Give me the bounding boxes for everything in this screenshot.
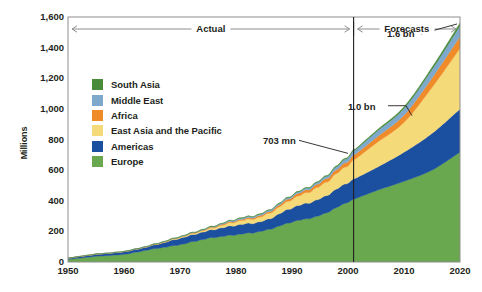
- legend-item: South Asia: [92, 77, 272, 92]
- legend-swatch-icon: [92, 156, 103, 167]
- legend-swatch-icon: [92, 110, 103, 121]
- x-tick-label: 1960: [101, 266, 147, 276]
- y-axis-tick-labels: 02004006008001,0001,2001,4001,600: [22, 0, 64, 292]
- x-axis-tick-labels: 19501960197019801990200020102020: [0, 266, 482, 282]
- y-tick-label: 800: [24, 135, 64, 145]
- y-tick-label: 600: [24, 165, 64, 175]
- y-tick-label: 1,600: [24, 12, 64, 22]
- legend-item-label: Africa: [111, 110, 138, 121]
- x-tick-label: 2010: [381, 266, 427, 276]
- x-tick-label: 1980: [213, 266, 259, 276]
- legend-item: East Asia and the Pacific: [92, 123, 272, 138]
- legend-item: Europe: [92, 154, 272, 169]
- legend-item-label: South Asia: [111, 79, 160, 90]
- y-tick-label: 400: [24, 196, 64, 206]
- legend-item-label: Europe: [111, 156, 143, 167]
- x-tick-label: 1990: [269, 266, 315, 276]
- x-tick-label: 2000: [325, 266, 371, 276]
- span-label-actual: Actual: [191, 24, 230, 34]
- legend-item: Middle East: [92, 92, 272, 107]
- y-tick-label: 1,200: [24, 73, 64, 83]
- legend-swatch-icon: [92, 125, 103, 136]
- chart-legend: South AsiaMiddle EastAfricaEast Asia and…: [92, 77, 272, 169]
- y-tick-label: 200: [24, 226, 64, 236]
- y-tick-label: 1,000: [24, 104, 64, 114]
- callout-1-6-bn: 1.6 bn: [387, 29, 414, 39]
- x-tick-label: 1950: [45, 266, 91, 276]
- x-tick-label: 1970: [157, 266, 203, 276]
- x-tick-label: 2020: [437, 266, 482, 276]
- legend-item-label: Middle East: [111, 95, 163, 106]
- legend-item-label: Americas: [111, 141, 153, 152]
- y-tick-label: 1,400: [24, 43, 64, 53]
- legend-item: Americas: [92, 139, 272, 154]
- legend-swatch-icon: [92, 141, 103, 152]
- legend-swatch-icon: [92, 79, 103, 90]
- callout-1-0-bn: 1.0 bn: [348, 102, 375, 112]
- callout-703-mn: 703 mn: [263, 136, 296, 146]
- legend-item: Africa: [92, 108, 272, 123]
- stacked-area-chart: Millions 02004006008001,0001,2001,4001,6…: [0, 0, 482, 292]
- legend-item-label: East Asia and the Pacific: [111, 125, 222, 136]
- legend-swatch-icon: [92, 95, 103, 106]
